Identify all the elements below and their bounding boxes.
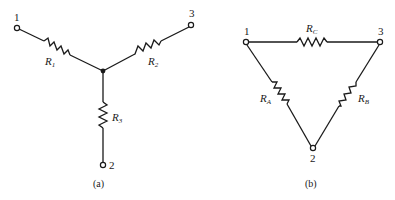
resistor-r2-icon: [133, 40, 161, 55]
branch-r3: [99, 71, 107, 162]
resistor-label-ra: RA: [259, 92, 272, 106]
branch-r1: [19, 29, 103, 71]
caption-b: (b): [305, 178, 317, 190]
node-label-3: 3: [378, 25, 384, 37]
terminal-2-icon: [100, 162, 105, 167]
terminal-2-icon: [310, 145, 315, 150]
resistor-rb-icon: [339, 82, 356, 106]
resistor-label-r2: R2: [147, 55, 159, 69]
node-label-3: 3: [189, 7, 195, 19]
wire: [356, 45, 379, 82]
wire: [247, 45, 272, 82]
circuit-diagram: 1 3 2 R1 R2 R3 (a): [0, 0, 395, 200]
wire: [161, 27, 189, 41]
wire: [287, 104, 311, 146]
resistor-label-r3: R3: [111, 111, 123, 125]
resistor-label-rb: RB: [357, 92, 370, 106]
node-label-2: 2: [310, 152, 316, 164]
node-label-2: 2: [109, 159, 115, 171]
wire: [315, 106, 339, 146]
resistor-rc-icon: [297, 38, 327, 46]
wire: [19, 29, 44, 41]
resistor-label-r1: R1: [44, 55, 55, 69]
terminal-3-icon: [377, 39, 382, 44]
terminal-1-icon: [14, 25, 19, 30]
wire: [70, 55, 103, 71]
branch-rb: [315, 45, 379, 146]
node-label-1: 1: [14, 11, 20, 23]
branch-rc: [249, 38, 377, 46]
wye-network: 1 3 2 R1 R2 R3 (a): [14, 7, 195, 190]
resistor-r3-icon: [99, 102, 107, 128]
branch-ra: [247, 45, 311, 146]
resistor-ra-icon: [272, 82, 289, 104]
caption-a: (a): [93, 178, 104, 190]
node-label-1: 1: [244, 25, 250, 37]
resistor-label-rc: RC: [305, 22, 318, 36]
branch-r2: [103, 27, 189, 71]
junction-dot-icon: [101, 69, 106, 74]
delta-network: 1 3 2 RC RA RB (b): [243, 22, 384, 190]
resistor-r1-icon: [44, 38, 70, 55]
terminal-3-icon: [188, 22, 193, 27]
terminal-1-icon: [243, 39, 248, 44]
wire: [103, 55, 133, 71]
